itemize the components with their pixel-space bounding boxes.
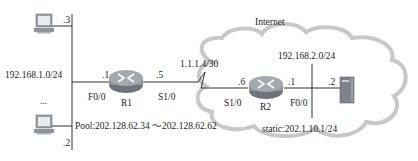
lan-left-ellipsis: ... [40, 96, 47, 106]
r2-name: R2 [260, 102, 271, 112]
r1-s1-host-id: .5 [156, 70, 163, 80]
router-icon [109, 70, 143, 93]
r1-f0-host-id: .1 [102, 70, 109, 80]
r2-s1-iface: S1/0 [224, 98, 241, 108]
internet-label: Internet [255, 17, 285, 27]
wan-network-label: 1.1.1.4/30 [180, 59, 218, 69]
server-host-id: .2 [328, 77, 335, 87]
r2-s1-host-id: .6 [238, 77, 245, 87]
pc-bottom-host-id: .2 [63, 138, 70, 148]
server-icon [340, 77, 354, 103]
router-icon [249, 76, 283, 99]
lan-left-network-label: 192.168.1.0/24 [5, 70, 62, 80]
computer-icon [34, 115, 54, 135]
r1-f0-iface: F0/0 [88, 92, 105, 102]
lan-right-network-label: 192.168.2.0/24 [278, 51, 335, 61]
internet-cloud [198, 24, 406, 136]
computer-icon [34, 14, 54, 34]
r1-s1-iface: S1/0 [158, 92, 175, 102]
static-nat-label: static:202.1.10.1/24 [262, 124, 337, 134]
r2-f0-host-id: .1 [288, 77, 295, 87]
r1-name: R1 [121, 98, 132, 108]
nat-pool-label: Pool:202.128.62.34 ～202.128.62.62 [75, 121, 217, 131]
r2-f0-iface: F0/0 [290, 98, 307, 108]
pc-top-host-id: .3 [63, 15, 70, 25]
